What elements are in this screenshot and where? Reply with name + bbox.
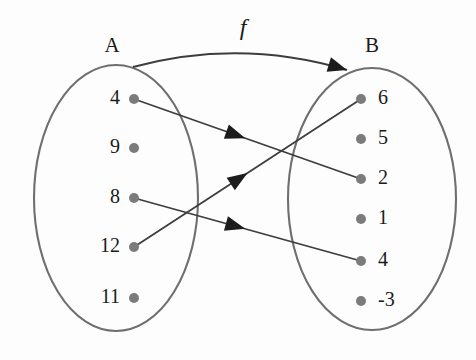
element-dot[interactable]	[356, 134, 366, 144]
set-b-elements-group: 65214-3	[356, 86, 395, 310]
mapping-lines-group	[134, 99, 361, 261]
element-value-label: 11	[101, 285, 120, 307]
element-node[interactable]: 4	[110, 86, 139, 108]
set-a-label: A	[104, 33, 120, 57]
element-dot[interactable]	[356, 214, 366, 224]
mapping-canvas: A B f 4981211 65214-3	[0, 0, 476, 360]
mapping-arrowhead	[224, 216, 245, 230]
element-value-label: 12	[100, 234, 120, 256]
element-node[interactable]: 6	[356, 86, 388, 108]
element-node[interactable]: 2	[356, 166, 388, 188]
mapping-arrow-8-to-4	[134, 198, 361, 261]
element-value-label: 6	[378, 86, 388, 108]
function-arc-arrowhead	[327, 57, 347, 71]
element-dot[interactable]	[129, 94, 139, 104]
element-dot[interactable]	[129, 293, 139, 303]
mapping-arrow-4-to-2	[134, 99, 361, 179]
element-dot[interactable]	[356, 256, 366, 266]
function-name-label: f	[240, 14, 250, 40]
element-value-label: 5	[378, 126, 388, 148]
element-value-label: -3	[378, 288, 395, 310]
element-node[interactable]: 4	[356, 248, 388, 270]
set-b-oval	[288, 68, 456, 330]
element-dot[interactable]	[129, 242, 139, 252]
element-value-label: 4	[110, 86, 120, 108]
mapping-arrowhead	[227, 173, 248, 190]
element-value-label: 2	[378, 166, 388, 188]
element-dot[interactable]	[129, 193, 139, 203]
element-value-label: 9	[110, 135, 120, 157]
function-arc-path	[133, 53, 347, 70]
element-node[interactable]: 5	[356, 126, 388, 148]
mapping-arrow-12-to-6	[134, 99, 361, 247]
mapping-line	[134, 99, 361, 179]
set-b-label: B	[365, 33, 379, 57]
element-value-label: 1	[378, 206, 388, 228]
element-dot[interactable]	[356, 296, 366, 306]
function-mapping-diagram: A B f 4981211 65214-3	[0, 0, 476, 360]
element-node[interactable]: -3	[356, 288, 395, 310]
element-node[interactable]: 9	[110, 135, 139, 157]
element-node[interactable]: 11	[101, 285, 139, 307]
element-node[interactable]: 8	[110, 185, 139, 207]
mapping-arrowhead	[224, 124, 245, 138]
set-a-elements-group: 4981211	[100, 86, 139, 307]
element-value-label: 8	[110, 185, 120, 207]
element-dot[interactable]	[356, 94, 366, 104]
element-value-label: 4	[378, 248, 388, 270]
element-node[interactable]: 12	[100, 234, 139, 256]
element-dot[interactable]	[356, 174, 366, 184]
mapping-line	[134, 198, 361, 261]
function-arrow	[133, 53, 347, 72]
element-node[interactable]: 1	[356, 206, 388, 228]
element-dot[interactable]	[129, 143, 139, 153]
